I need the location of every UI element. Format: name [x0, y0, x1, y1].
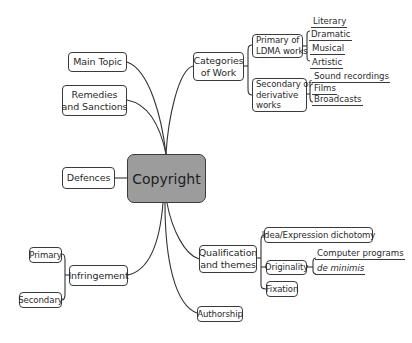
node-originality[interactable]: Originality [266, 260, 307, 275]
central-label: Copyright [132, 171, 200, 187]
node-fixation[interactable]: Fixation [266, 281, 298, 297]
leaf-computer-programs[interactable]: Computer programs [315, 248, 405, 260]
node-label-line1: Categories [193, 55, 243, 67]
node-remedies-and-sanctions[interactable]: Remedies and Sanctions [62, 85, 127, 116]
node-infringement[interactable]: Infringement [69, 265, 128, 286]
leaf-literary[interactable]: Literary [311, 16, 347, 28]
leaf-sound-recordings[interactable]: Sound recordings [312, 71, 390, 83]
node-label: Main Topic [73, 56, 122, 68]
node-categories-of-work[interactable]: Categories of Work [193, 52, 244, 81]
central-node-copyright[interactable]: Copyright [127, 154, 206, 203]
node-label-line2: LDMA works [256, 46, 308, 57]
node-label-line3: works [256, 100, 281, 111]
node-label: Secondary [18, 295, 63, 306]
node-label: Originality [265, 262, 308, 273]
node-label: Primary [29, 250, 62, 261]
node-label: Defences [67, 172, 111, 184]
node-label-line2: and themes [200, 259, 256, 271]
node-label-line2: derivative [256, 90, 298, 101]
leaf-dramatic[interactable]: Dramatic [309, 29, 352, 41]
node-label: Authorship [197, 309, 243, 320]
node-label: Infringement [68, 270, 128, 282]
node-defences[interactable]: Defences [62, 167, 115, 189]
leaf-musical[interactable]: Musical [310, 43, 345, 55]
node-authorship[interactable]: Authorship [197, 306, 243, 322]
node-qualification-and-themes[interactable]: Qualification and themes [199, 245, 257, 273]
node-primary-ldma-works[interactable]: Primary of LDMA works [252, 34, 303, 58]
leaf-artistic[interactable]: Artistic [310, 57, 343, 69]
node-infringement-secondary[interactable]: Secondary [19, 292, 62, 308]
leaf-de-minimis[interactable]: de minimis [315, 263, 365, 275]
node-label-line1: Primary of [256, 35, 299, 46]
node-secondary-derivative-works[interactable]: Secondary of derivative works [252, 78, 307, 112]
node-label-line2: and Sanctions [62, 101, 128, 113]
node-label-line1: Secondary of [256, 79, 311, 90]
node-label: Fixation [266, 284, 299, 295]
node-infringement-primary[interactable]: Primary [29, 247, 62, 263]
node-label-line1: Qualification [199, 247, 258, 259]
node-label-line2: of Work [201, 67, 237, 79]
node-idea-expression-dichotomy[interactable]: Idea/Expression dichotomy [264, 227, 373, 243]
node-label: Idea/Expression dichotomy [262, 230, 376, 241]
node-label-line1: Remedies [72, 89, 118, 101]
leaf-broadcasts[interactable]: Broadcasts [312, 94, 363, 106]
node-main-topic[interactable]: Main Topic [68, 52, 127, 72]
